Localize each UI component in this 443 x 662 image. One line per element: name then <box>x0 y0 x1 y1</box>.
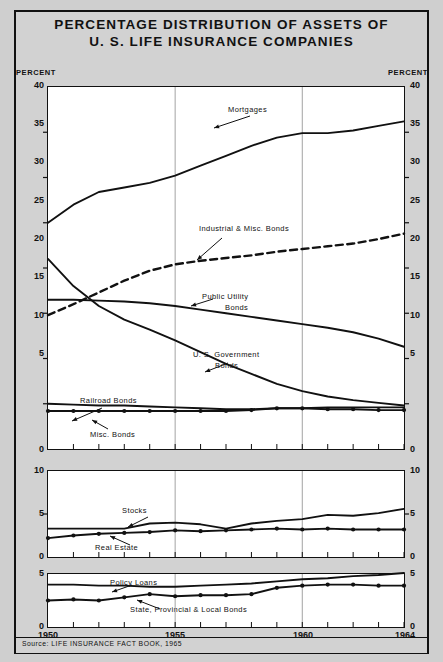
series-line-state-provincial-local-bonds <box>48 585 404 601</box>
series-marker <box>351 583 355 587</box>
series-line-industrial-misc-bonds <box>48 234 404 315</box>
series-marker <box>351 407 355 411</box>
series-marker <box>402 527 406 531</box>
series-marker <box>275 586 279 590</box>
series-marker <box>122 409 126 413</box>
series-marker <box>326 407 330 411</box>
annotation-arrowhead <box>214 124 220 128</box>
annotation-arrowhead <box>72 417 78 421</box>
series-marker <box>71 597 75 601</box>
series-marker <box>198 409 202 413</box>
series-marker <box>71 533 75 537</box>
series-marker <box>376 584 380 588</box>
series-marker <box>402 584 406 588</box>
series-marker <box>300 406 304 410</box>
series-marker <box>173 528 177 532</box>
annotation-arrowhead <box>191 303 197 307</box>
series-marker <box>402 408 406 412</box>
series-marker <box>300 584 304 588</box>
series-marker <box>249 408 253 412</box>
series-marker <box>326 583 330 587</box>
annotation-leader-line <box>214 116 250 128</box>
series-marker <box>148 592 152 596</box>
series-marker <box>376 408 380 412</box>
series-marker <box>71 409 75 413</box>
chart-plot-surface <box>0 0 443 662</box>
series-marker <box>249 592 253 596</box>
annotation-arrowhead <box>110 536 116 540</box>
series-marker <box>300 527 304 531</box>
series-marker <box>376 527 380 531</box>
chart-page: PERCENTAGE DISTRIBUTION OF ASSETS OF U. … <box>0 0 443 662</box>
series-marker <box>326 527 330 531</box>
annotation-arrowhead <box>205 368 211 372</box>
annotation-arrowhead <box>92 420 98 424</box>
series-marker <box>46 409 50 413</box>
series-marker <box>173 594 177 598</box>
series-marker <box>97 532 101 536</box>
series-marker <box>46 536 50 540</box>
series-marker <box>46 598 50 602</box>
annotation-arrowhead <box>128 523 134 527</box>
series-marker <box>351 527 355 531</box>
series-marker <box>249 527 253 531</box>
series-marker <box>198 593 202 597</box>
series-marker <box>224 593 228 597</box>
source-note: Source: LIFE INSURANCE FACT BOOK, 1965 <box>22 640 182 647</box>
series-marker <box>122 595 126 599</box>
series-line-stocks <box>48 509 404 529</box>
series-marker <box>173 409 177 413</box>
series-line-mortgages <box>48 121 404 222</box>
series-marker <box>97 598 101 602</box>
series-marker <box>122 531 126 535</box>
series-marker <box>148 530 152 534</box>
series-marker <box>198 529 202 533</box>
annotation-arrowhead <box>137 600 143 604</box>
annotation-arrowhead <box>112 588 118 592</box>
series-marker <box>275 527 279 531</box>
series-marker <box>224 528 228 532</box>
series-marker <box>148 409 152 413</box>
series-marker <box>275 406 279 410</box>
series-marker <box>224 409 228 413</box>
